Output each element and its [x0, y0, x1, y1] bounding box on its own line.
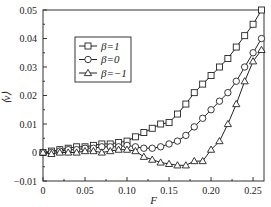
triangle-marker [224, 120, 231, 126]
square-marker [191, 90, 197, 96]
square-marker [183, 101, 189, 107]
x-tick-label: 0.15 [160, 185, 178, 196]
x-tick-label: 0 [41, 185, 46, 196]
square-marker [174, 111, 180, 117]
square-marker [132, 134, 138, 140]
circle-marker [216, 98, 222, 104]
y-axis-label: ⟨v⟩ [0, 91, 12, 105]
x-tick-label: 0.25 [244, 185, 262, 196]
circle-marker [191, 124, 197, 130]
y-tick-label: 0.01 [20, 119, 38, 130]
square-marker [225, 55, 231, 61]
square-marker [258, 7, 264, 13]
legend-circle-marker [85, 56, 91, 62]
square-marker [208, 73, 214, 79]
y-tick-label: 0.04 [20, 33, 38, 44]
circle-marker [225, 89, 231, 95]
square-marker [200, 81, 206, 87]
circle-marker [166, 141, 172, 147]
circle-marker [250, 50, 256, 56]
circle-marker [258, 35, 264, 41]
circle-marker [199, 115, 205, 121]
legend-label: β=0 [100, 53, 120, 65]
circle-marker [233, 78, 239, 84]
triangle-marker [233, 100, 240, 106]
square-marker [216, 64, 222, 70]
square-marker [233, 44, 239, 50]
y-tick-label: −0.01 [14, 176, 37, 187]
square-marker [141, 130, 147, 136]
y-tick-label: 0.02 [20, 90, 38, 101]
square-marker [158, 121, 164, 127]
circle-marker [241, 64, 247, 70]
triangle-marker [140, 153, 147, 159]
legend-square-marker [85, 43, 91, 49]
square-marker [242, 33, 248, 39]
triangle-marker [191, 157, 198, 163]
circle-marker [208, 107, 214, 113]
square-marker [149, 125, 155, 131]
x-axis-label: F [149, 194, 157, 206]
x-tick-label: 0.20 [202, 185, 220, 196]
circle-marker [157, 144, 163, 150]
legend-label: β=1 [100, 40, 119, 52]
triangle-marker [216, 138, 223, 144]
square-marker [250, 21, 256, 27]
triangle-marker [241, 78, 248, 84]
y-tick-label: 0.05 [20, 5, 38, 16]
circle-marker [141, 145, 147, 151]
legend-label: β=−1 [100, 67, 127, 79]
line-chart: 00.050.100.150.200.25−0.0100.010.020.030… [0, 0, 271, 207]
circle-marker [183, 132, 189, 138]
x-tick-label: 0.10 [118, 185, 136, 196]
y-tick-label: 0 [32, 147, 37, 158]
x-tick-label: 0.05 [76, 185, 94, 196]
circle-marker [149, 145, 155, 151]
y-tick-label: 0.03 [20, 62, 38, 73]
square-marker [166, 120, 172, 126]
circle-marker [174, 138, 180, 144]
